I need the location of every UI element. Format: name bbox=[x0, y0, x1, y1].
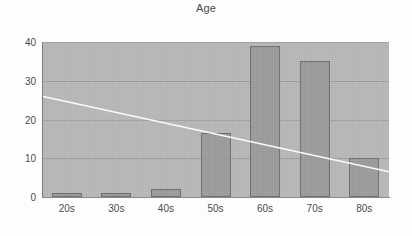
x-tick-label-30s: 30s bbox=[108, 203, 124, 214]
x-axis-line bbox=[42, 197, 390, 198]
x-tick-label-60s: 60s bbox=[257, 203, 273, 214]
y-tick-label: 30 bbox=[25, 75, 36, 86]
x-tick-label-50s: 50s bbox=[207, 203, 223, 214]
trend-line bbox=[42, 42, 389, 197]
x-tick-label-70s: 70s bbox=[307, 203, 323, 214]
x-tick-label-20s: 20s bbox=[59, 203, 75, 214]
x-axis-tick-labels: 20s30s40s50s60s70s80s bbox=[42, 203, 389, 225]
y-tick-label: 20 bbox=[25, 114, 36, 125]
x-tick-label-80s: 80s bbox=[356, 203, 372, 214]
chart-container: Age 010203040 20s30s40s50s60s70s80s bbox=[0, 0, 412, 236]
x-tick-label-40s: 40s bbox=[158, 203, 174, 214]
y-tick-label: 40 bbox=[25, 37, 36, 48]
chart-title: Age bbox=[0, 2, 412, 14]
y-tick-label: 0 bbox=[30, 192, 36, 203]
y-tick-label: 10 bbox=[25, 153, 36, 164]
plot-area bbox=[42, 42, 389, 197]
y-axis-tick-labels: 010203040 bbox=[8, 0, 36, 236]
y-axis-line bbox=[42, 42, 43, 198]
